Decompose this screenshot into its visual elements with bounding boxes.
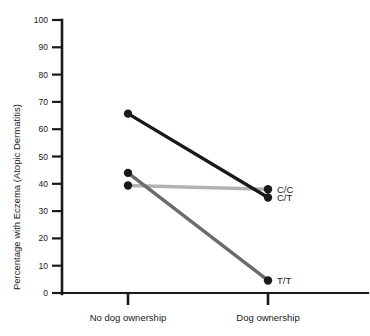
y-tick-label: 30 <box>39 206 49 216</box>
data-point-marker <box>124 109 132 117</box>
x-category-label: Dog ownership <box>236 312 299 323</box>
series-label-tt: T/T <box>277 275 291 286</box>
y-tick-label: 20 <box>39 233 49 243</box>
data-point-marker <box>124 169 132 177</box>
x-tick-group <box>128 293 268 305</box>
chart-canvas: Percentage with Eczema (Atopic Dermatiti… <box>0 0 370 336</box>
data-point-marker <box>124 181 132 189</box>
series-group <box>124 109 272 284</box>
line-chart: Percentage with Eczema (Atopic Dermatiti… <box>0 0 370 336</box>
y-axis-label: Percentage with Eczema (Atopic Dermatiti… <box>11 104 22 290</box>
y-tick-label: 90 <box>39 42 49 52</box>
y-tick-label: 10 <box>39 261 49 271</box>
y-tick-group: 0102030405060708090100 <box>34 15 62 298</box>
series-endpoint-labels: C/CC/TT/T <box>277 184 294 286</box>
y-tick-label: 70 <box>39 97 49 107</box>
y-tick-label: 80 <box>39 70 49 80</box>
data-point-marker <box>264 185 272 193</box>
y-tick-label: 0 <box>43 288 48 298</box>
y-tick-label: 50 <box>39 152 49 162</box>
y-tick-label: 60 <box>39 124 49 134</box>
data-point-marker <box>264 193 272 201</box>
x-category-labels: No dog ownershipDog ownership <box>90 312 300 323</box>
series-label-ct: C/T <box>277 192 293 203</box>
y-tick-label: 40 <box>39 179 49 189</box>
data-point-marker <box>264 276 272 284</box>
y-tick-label: 100 <box>34 15 48 25</box>
x-category-label: No dog ownership <box>90 312 167 323</box>
